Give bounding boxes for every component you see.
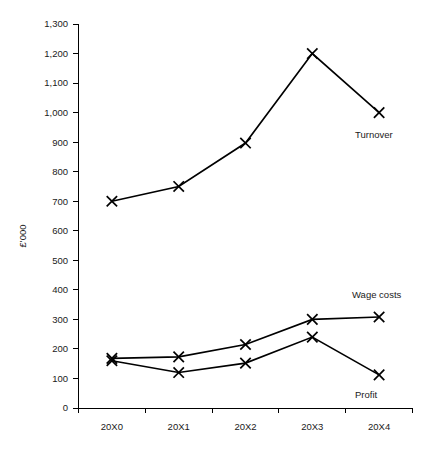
y-tick-label: 100 (52, 373, 68, 384)
x-tick-label: 20X2 (234, 421, 256, 432)
chart-canvas: 01002003004005006007008009001,0001,1001,… (0, 0, 430, 452)
y-tick-label: 700 (52, 196, 68, 207)
y-axis-title: £'000 (17, 225, 28, 248)
y-tick-label: 0 (63, 402, 68, 413)
x-tick-label: 20X1 (168, 421, 190, 432)
series-label-profit: Profit (355, 389, 378, 400)
x-tick-label: 20X3 (301, 421, 323, 432)
y-tick-label: 800 (52, 166, 68, 177)
y-tick-label: 600 (52, 225, 68, 236)
line-chart: 01002003004005006007008009001,0001,1001,… (0, 0, 430, 452)
x-tick-label: 20X0 (101, 421, 123, 432)
series-label-wage-costs: Wage costs (352, 289, 402, 300)
y-tick-label: 1,300 (44, 18, 68, 29)
y-tick-label: 1,000 (44, 107, 68, 118)
series-label-turnover: Turnover (355, 129, 393, 140)
y-tick-label: 400 (52, 284, 68, 295)
y-tick-label: 1,100 (44, 77, 68, 88)
y-tick-label: 300 (52, 314, 68, 325)
y-tick-label: 200 (52, 343, 68, 354)
y-tick-label: 1,200 (44, 48, 68, 59)
y-tick-label: 500 (52, 255, 68, 266)
x-tick-label: 20X4 (368, 421, 390, 432)
y-tick-label: 900 (52, 137, 68, 148)
